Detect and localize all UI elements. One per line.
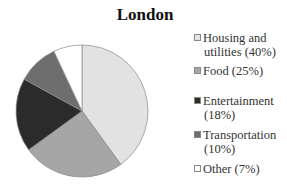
legend-label: Housing and [203, 31, 267, 45]
legend-item-other: Other (7%) [194, 162, 287, 176]
legend-item-housing: Housing and utilities (40%) [194, 31, 287, 59]
legend-label: Other (7%) [203, 162, 260, 176]
legend-swatch-entertainment [194, 97, 201, 104]
legend-swatch-housing [194, 34, 201, 41]
legend-swatch-other [194, 165, 201, 172]
legend-swatch-transportation [194, 131, 201, 138]
legend-item-entertainment: Entertainment (18%) [194, 94, 287, 122]
legend-label: Transportation [203, 128, 276, 142]
legend-item-food: Food (25%) [194, 64, 287, 78]
legend-swatch-food [194, 67, 201, 74]
legend-label: utilities (40%) [194, 45, 276, 59]
legend-label: (18%) [194, 108, 235, 122]
pie-slices [16, 45, 148, 177]
legend-item-transportation: Transportation (10%) [194, 128, 287, 156]
legend-label: (10%) [194, 142, 235, 156]
legend-label: Food (25%) [203, 64, 263, 78]
legend-label: Entertainment [203, 94, 274, 108]
